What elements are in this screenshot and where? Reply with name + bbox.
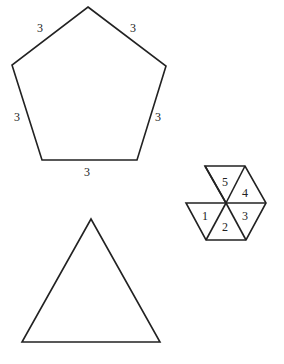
pentagon-side-label-right: 3 [155, 110, 161, 124]
net-triangle-label-1: 1 [202, 209, 208, 223]
net-triangle-label-2: 2 [222, 220, 228, 234]
diagram-canvas: 3 3 3 3 3 1 2 3 4 5 [0, 0, 284, 364]
net-triangle-label-4: 4 [242, 186, 248, 200]
equilateral-triangle [22, 219, 160, 342]
pentagon-side-label-top-right: 3 [130, 21, 136, 35]
net-triangle-label-3: 3 [242, 209, 248, 223]
hexagon-net: 1 2 3 4 5 [186, 166, 266, 240]
pentagon-side-label-top-left: 3 [37, 21, 43, 35]
net-triangle-label-5: 5 [222, 175, 228, 189]
triangle-outline [22, 219, 160, 342]
pentagon-side-label-left: 3 [14, 110, 20, 124]
pentagon-outline [12, 7, 166, 160]
pentagon-side-label-bottom: 3 [84, 165, 90, 179]
pentagon: 3 3 3 3 3 [12, 7, 166, 179]
